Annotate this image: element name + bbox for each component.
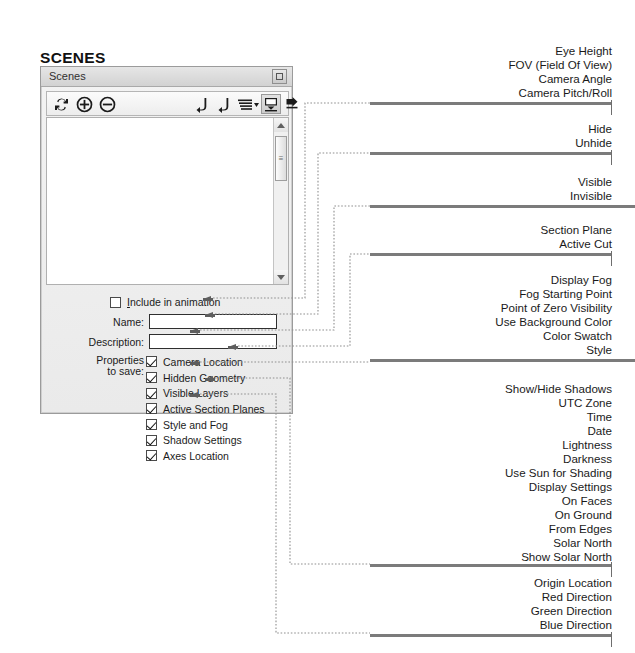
scene-properties-area: Include in animation Name: Description: … xyxy=(46,289,289,409)
annotation-bar-active-section-planes xyxy=(370,253,612,256)
property-label-camera-location: Camera Location xyxy=(163,356,243,368)
update-scene-icon[interactable] xyxy=(51,94,71,114)
annotation-item: Show/Hide Shadows xyxy=(505,382,612,396)
property-row-shadow-settings[interactable]: Shadow Settings xyxy=(146,432,265,448)
triangle-down-glyph xyxy=(277,275,285,280)
annotation-tick-camera-location xyxy=(611,100,612,115)
annotation-item: Red Direction xyxy=(531,590,612,604)
property-label-style-and-fog: Style and Fog xyxy=(163,419,228,431)
include-in-animation-checkbox[interactable] xyxy=(110,297,121,308)
close-glyph xyxy=(276,73,283,80)
name-field-row: Name: xyxy=(46,314,277,329)
move-scene-down-icon[interactable] xyxy=(214,94,234,114)
annotation-tick-active-section-planes xyxy=(611,251,612,266)
checkbox-axes-location[interactable] xyxy=(146,450,157,461)
scrollbar-thumb[interactable]: ≡ xyxy=(275,136,287,181)
property-row-axes-location[interactable]: Axes Location xyxy=(146,448,265,464)
annotation-item: Date xyxy=(505,424,612,438)
dialog-title: Scenes xyxy=(49,70,86,82)
scene-list[interactable]: ≡ xyxy=(46,117,289,285)
properties-to-save-label: Properties to save: xyxy=(50,355,144,377)
annotation-item: Solar North xyxy=(505,536,612,550)
annotation-labels-axes-location: Origin Location Red Direction Green Dire… xyxy=(531,576,612,632)
property-row-visible-layers[interactable]: Visible Layers xyxy=(146,385,265,401)
scenes-toolbar xyxy=(46,91,289,116)
annotation-item: Lightness xyxy=(505,438,612,452)
checkbox-visible-layers[interactable] xyxy=(146,388,157,399)
description-field-row: Description: xyxy=(46,334,277,349)
annotation-item: Display Fog xyxy=(495,273,612,287)
description-field-label: Description: xyxy=(46,336,149,348)
annotation-item: From Edges xyxy=(505,522,612,536)
checkbox-active-section-planes[interactable] xyxy=(146,403,157,414)
annotation-item: Visible xyxy=(570,175,612,189)
triangle-up-glyph xyxy=(277,123,285,128)
page-title: SCENES xyxy=(40,49,106,67)
annotation-bar-style-and-fog xyxy=(370,359,635,362)
annotation-item: Style xyxy=(495,343,612,357)
leader-arrow-style-and-fog xyxy=(190,360,198,366)
annotation-bar-hidden-geometry xyxy=(370,152,612,155)
checkbox-camera-location[interactable] xyxy=(146,356,157,367)
property-row-style-and-fog[interactable]: Style and Fog xyxy=(146,417,265,433)
scene-list-scrollbar[interactable]: ≡ xyxy=(273,118,288,284)
annotation-item: Eye Height xyxy=(508,44,612,58)
annotation-item: Unhide xyxy=(575,136,612,150)
annotation-item: UTC Zone xyxy=(505,396,612,410)
annotation-bar-visible-layers xyxy=(370,205,635,208)
annotation-tick-axes-location xyxy=(611,632,612,647)
property-label-active-section-planes: Active Section Planes xyxy=(163,403,265,415)
annotation-item: Use Background Color xyxy=(495,315,612,329)
annotation-item: Darkness xyxy=(505,452,612,466)
annotation-item: Hide xyxy=(575,122,612,136)
annotation-labels-camera-location: Eye Height FOV (Field Of View) Camera An… xyxy=(508,44,612,100)
annotation-item: Invisible xyxy=(570,189,612,203)
annotation-tick-shadow-settings xyxy=(611,562,612,577)
leader-arrow-active-section-planes xyxy=(228,344,236,350)
property-row-camera-location[interactable]: Camera Location xyxy=(146,354,265,370)
move-scene-up-icon[interactable] xyxy=(192,94,212,114)
annotation-bar-shadow-settings xyxy=(370,564,612,567)
annotation-item: FOV (Field Of View) xyxy=(508,58,612,72)
annotation-item: Point of Zero Visibility xyxy=(495,301,612,315)
scenes-dialog: Scenes xyxy=(40,66,293,414)
annotation-labels-shadow-settings: Show/Hide Shadows UTC Zone Time Date Lig… xyxy=(505,382,612,564)
checkbox-hidden-geometry[interactable] xyxy=(146,372,157,383)
annotation-item: Green Direction xyxy=(531,604,612,618)
thumb-grip-glyph: ≡ xyxy=(279,154,284,163)
property-label-shadow-settings: Shadow Settings xyxy=(163,434,242,446)
properties-to-save-list: Camera Location Hidden Geometry Visible … xyxy=(146,354,265,464)
annotation-item: Fog Starting Point xyxy=(495,287,612,301)
expand-panel-icon[interactable] xyxy=(285,94,299,114)
annotation-item: Camera Pitch/Roll xyxy=(508,86,612,100)
annotation-bar-camera-location xyxy=(370,102,612,105)
properties-to-save-line2: to save: xyxy=(50,366,144,377)
add-scene-icon[interactable] xyxy=(74,94,94,114)
annotation-item: Camera Angle xyxy=(508,72,612,86)
leader-arrow-hidden-geometry xyxy=(205,312,213,318)
checkbox-style-and-fog[interactable] xyxy=(146,419,157,430)
annotation-item: Use Sun for Shading xyxy=(505,466,612,480)
name-field-label: Name: xyxy=(46,316,149,328)
annotation-tick-hidden-geometry xyxy=(611,150,612,165)
description-input[interactable] xyxy=(149,334,277,349)
annotation-bar-axes-location xyxy=(370,634,612,637)
leader-arrow-visible-layers xyxy=(190,328,198,334)
dialog-titlebar: Scenes xyxy=(41,67,292,87)
close-icon[interactable] xyxy=(272,69,287,84)
annotation-item: On Ground xyxy=(505,508,612,522)
annotation-item: Section Plane xyxy=(540,223,612,237)
remove-scene-icon[interactable] xyxy=(97,94,117,114)
scroll-up-icon[interactable] xyxy=(274,118,288,132)
annotation-item: Color Swatch xyxy=(495,329,612,343)
scroll-down-icon[interactable] xyxy=(274,270,288,284)
annotation-item: Display Settings xyxy=(505,480,612,494)
checkbox-shadow-settings[interactable] xyxy=(146,435,157,446)
view-options-icon[interactable] xyxy=(235,94,261,114)
leader-arrow-camera-location xyxy=(203,296,211,302)
show-details-icon[interactable] xyxy=(261,94,281,114)
property-row-active-section-planes[interactable]: Active Section Planes xyxy=(146,401,265,417)
annotation-labels-active-section-planes: Section Plane Active Cut xyxy=(540,223,612,251)
annotation-labels-hidden-geometry: Hide Unhide xyxy=(575,122,612,150)
leader-arrow-axes-location xyxy=(190,392,198,398)
